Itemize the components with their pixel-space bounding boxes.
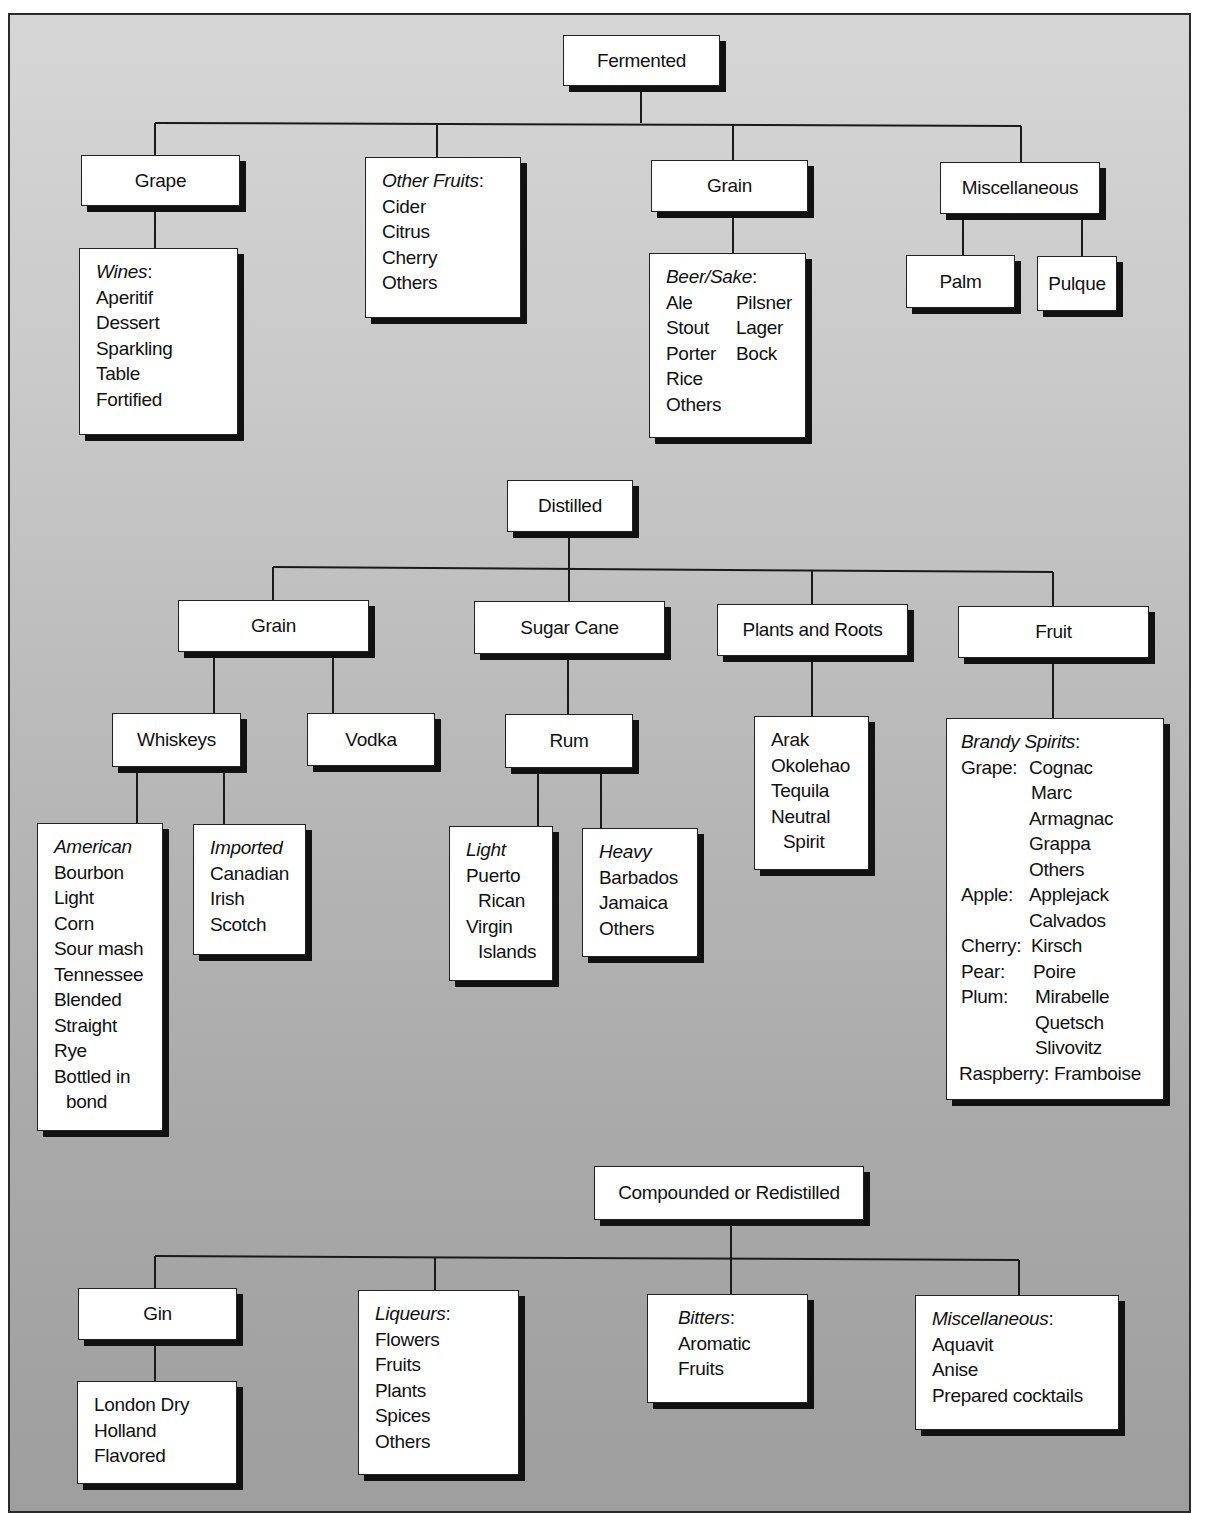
list-item: Straight (54, 1013, 162, 1039)
list-heading: Wines (96, 261, 147, 282)
list-item: Others (375, 1429, 518, 1455)
list-item: Anise (932, 1357, 1118, 1383)
node-compounded-misc: Miscellaneous: Aquavit Anise Prepared co… (915, 1295, 1119, 1430)
list-item: Table (96, 361, 237, 387)
brandy-value: Cognac (1029, 755, 1093, 781)
list-item: Puerto (466, 863, 552, 889)
list-heading: Miscellaneous (932, 1308, 1049, 1329)
brandy-value: Grappa (1029, 831, 1091, 857)
node-liqueurs: Liqueurs: Flowers Fruits Plants Spices O… (358, 1290, 519, 1475)
list-item: Canadian (210, 861, 305, 887)
list-item: Others (666, 392, 736, 418)
list-item: Tequila (771, 778, 868, 804)
list-heading: Bitters (678, 1307, 730, 1328)
node-label: Plants and Roots (743, 617, 883, 643)
node-rum: Rum (505, 714, 633, 768)
list-item: Rican (466, 888, 552, 914)
list-item: Cider (382, 194, 520, 220)
brandy-value: Kirsch (1031, 933, 1082, 959)
node-sugar-cane: Sugar Cane (474, 601, 665, 654)
list-item: Spirit (771, 829, 868, 855)
node-beer-sake-list: Beer/Sake: Ale Stout Porter Rice Others … (649, 253, 806, 438)
brandy-key (961, 806, 1029, 832)
brandy-value: Mirabelle (1035, 984, 1109, 1010)
node-fruit: Fruit (958, 606, 1149, 658)
list-heading: Brandy Spirits (961, 731, 1075, 752)
brandy-key (961, 908, 1029, 934)
list-heading: American (54, 836, 132, 857)
brandy-value: Quetsch (1035, 1010, 1104, 1036)
list-item: Okolehao (771, 753, 868, 779)
node-brandy-list: Brandy Spirits: Grape:Cognac Marc Armagn… (946, 718, 1164, 1100)
list-heading: Heavy (599, 841, 651, 862)
list-item: Barbados (599, 865, 697, 891)
brandy-key: Plum: (961, 984, 1035, 1010)
list-item: Sour mash (54, 936, 162, 962)
list-item: Islands (466, 939, 552, 965)
list-item: Lager (736, 315, 792, 341)
node-imported-whiskeys: Imported Canadian Irish Scotch (193, 824, 306, 955)
brandy-value: Applejack (1029, 882, 1109, 908)
brandy-key (961, 1010, 1035, 1036)
list-item: Plants (375, 1378, 518, 1404)
list-heading: Beer/Sake (666, 266, 752, 287)
list-item: Tennessee (54, 962, 162, 988)
node-label: Grain (707, 173, 752, 199)
list-item: Cherry (382, 245, 520, 271)
list-item: London Dry (94, 1392, 236, 1418)
node-label: Sugar Cane (520, 615, 618, 641)
list-item: Porter (666, 341, 736, 367)
brandy-key (961, 1035, 1035, 1061)
brandy-value: Framboise (1054, 1061, 1141, 1087)
node-label: Compounded or Redistilled (618, 1180, 840, 1206)
list-item: Irish (210, 886, 305, 912)
node-label: Fruit (1035, 619, 1072, 645)
node-label: Pulque (1048, 271, 1105, 297)
brandy-key (961, 780, 1031, 806)
list-item: Virgin (466, 914, 552, 940)
list-item: Bottled in (54, 1064, 162, 1090)
node-plants-roots: Plants and Roots (717, 604, 908, 656)
node-distilled: Distilled (507, 480, 633, 532)
list-item: Fruits (678, 1356, 807, 1382)
list-item: Rye (54, 1038, 162, 1064)
node-compounded: Compounded or Redistilled (594, 1166, 864, 1220)
node-label: Distilled (538, 493, 602, 519)
list-item: Flavored (94, 1443, 236, 1469)
list-item: Prepared cocktails (932, 1383, 1118, 1409)
node-fermented: Fermented (563, 35, 720, 86)
list-item: Rice (666, 366, 736, 392)
list-item: Sparkling (96, 336, 237, 362)
node-other-fruits: Other Fruits: Cider Citrus Cherry Others (365, 157, 521, 318)
node-american-whiskeys: American Bourbon Light Corn Sour mash Te… (37, 823, 163, 1131)
list-item: Others (382, 270, 520, 296)
node-gin-list: London Dry Holland Flavored (77, 1381, 237, 1484)
node-label: Rum (549, 728, 588, 754)
node-pulque: Pulque (1037, 256, 1117, 311)
node-label: Grape (135, 168, 186, 194)
list-heading: Imported (210, 837, 283, 858)
brandy-value: Slivovitz (1035, 1035, 1102, 1061)
list-item: Jamaica (599, 890, 697, 916)
list-item: Dessert (96, 310, 237, 336)
node-label: Fermented (597, 48, 686, 74)
node-label: Gin (143, 1301, 172, 1327)
list-item: Holland (94, 1418, 236, 1444)
node-label: Vodka (345, 727, 396, 753)
list-item: Aquavit (932, 1332, 1118, 1358)
list-item: Citrus (382, 219, 520, 245)
list-item: Corn (54, 911, 162, 937)
node-grape: Grape (81, 155, 240, 206)
node-label: Palm (939, 269, 981, 295)
brandy-key: Pear: (961, 959, 1033, 985)
brandy-key: Grape: (961, 755, 1029, 781)
node-plants-roots-list: Arak Okolehao Tequila Neutral Spirit (754, 716, 869, 870)
list-item: Bourbon (54, 860, 162, 886)
node-label: Whiskeys (137, 727, 216, 753)
list-item: Fruits (375, 1352, 518, 1378)
list-item: Ale (666, 290, 736, 316)
brandy-key: Raspberry: (959, 1061, 1049, 1087)
list-item: Others (599, 916, 697, 942)
brandy-value: Others (1029, 857, 1084, 883)
list-heading: Other Fruits (382, 170, 479, 191)
